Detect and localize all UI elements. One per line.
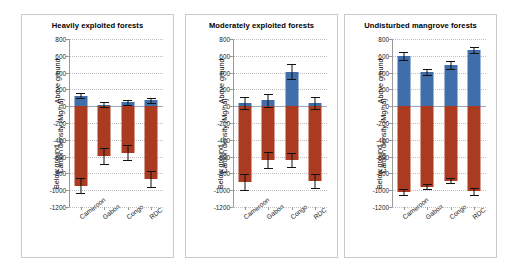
x-tick-mark (315, 207, 316, 210)
bar-group[interactable] (304, 39, 328, 207)
error-bar-cap (76, 93, 85, 94)
error-bar-cap (100, 107, 109, 108)
error-bar-cap (470, 195, 479, 196)
x-tick-mark (81, 207, 82, 210)
y-tick-label: 600 (378, 52, 389, 59)
y-tick-label: 400 (219, 69, 230, 76)
error-bar-below (403, 189, 404, 196)
error-bar-cap (147, 98, 156, 99)
plot-area: 8006004002000-200-400-600-800-1000-1200 (392, 39, 486, 207)
error-bar-cap (76, 193, 85, 194)
error-bar-cap (423, 184, 432, 185)
y-tick-label: 800 (219, 36, 230, 43)
error-bar-cap (100, 164, 109, 165)
error-bar-cap (446, 183, 455, 184)
bar-below-ground[interactable] (238, 106, 251, 182)
error-bar-below (315, 174, 316, 188)
error-bar-cap (264, 152, 273, 153)
error-bar-cap (76, 178, 85, 179)
bar-below-ground[interactable] (468, 106, 481, 191)
error-bar-cap (470, 53, 479, 54)
error-bar-cap (123, 160, 132, 161)
bar-above-ground[interactable] (397, 56, 410, 106)
error-bar-cap (264, 94, 273, 95)
bar-above-ground[interactable] (468, 50, 481, 106)
error-bar-cap (147, 187, 156, 188)
error-bar-cap (311, 109, 320, 110)
y-tick-label: -600 (376, 153, 389, 160)
bar-below-ground[interactable] (421, 106, 434, 187)
error-bar-cap (100, 148, 109, 149)
y-tick-mark (230, 207, 233, 208)
error-bar-cap (240, 97, 249, 98)
x-tick-mark (474, 207, 475, 210)
x-tick-mark (451, 207, 452, 210)
below-ground-axis-label: Below ground (52, 145, 61, 189)
bar-group[interactable] (257, 39, 281, 207)
bar-group[interactable] (140, 39, 164, 207)
error-bar-cap (123, 145, 132, 146)
y-tick-label: -800 (217, 170, 230, 177)
bar-below-ground[interactable] (145, 106, 158, 179)
y-tick-label: -600 (53, 153, 66, 160)
bar-group[interactable] (69, 39, 93, 207)
error-bar-cap (446, 178, 455, 179)
y-tick-label: 200 (378, 86, 389, 93)
x-tick-mark (151, 207, 152, 210)
error-bar-cap (76, 98, 85, 99)
bar-above-ground[interactable] (444, 65, 457, 106)
y-tick-label: -1200 (214, 204, 230, 211)
error-bar-below (80, 178, 81, 193)
x-tick-mark (427, 207, 428, 210)
y-tick-label: 800 (55, 36, 66, 43)
y-tick-mark (66, 207, 69, 208)
error-bar-cap (264, 168, 273, 169)
bar-below-ground[interactable] (397, 106, 410, 192)
error-bar-above (474, 47, 475, 54)
bar-group[interactable] (93, 39, 117, 207)
x-tick-mark (268, 207, 269, 210)
bar-group[interactable] (392, 39, 416, 207)
error-bar-cap (240, 190, 249, 191)
below-ground-axis-label: Below ground (216, 145, 225, 189)
error-bar-cap (423, 189, 432, 190)
chart-panel-0: Heavily exploited forestsCarbon density … (21, 14, 174, 258)
error-bar-cap (470, 188, 479, 189)
bar-group[interactable] (463, 39, 487, 207)
chart-figure: Heavily exploited forestsCarbon density … (0, 0, 516, 272)
panel-title: Heavily exploited forests (22, 21, 173, 31)
bar-below-ground[interactable] (444, 106, 457, 181)
bar-below-ground[interactable] (74, 106, 87, 185)
x-tick-mark (404, 207, 405, 210)
error-bar-below (291, 153, 292, 167)
above-ground-axis-label: Above ground (53, 59, 62, 104)
y-tick-label: -400 (376, 136, 389, 143)
error-bar-below (474, 188, 475, 195)
gridline (233, 207, 327, 208)
error-bar-cap (100, 102, 109, 103)
panel-title: Undisturbed mangrove forests (345, 21, 496, 31)
bar-group[interactable] (416, 39, 440, 207)
error-bar-cap (123, 100, 132, 101)
bar-group[interactable] (439, 39, 463, 207)
plot-area: 8006004002000-200-400-600-800-1000-1200 (69, 39, 163, 207)
x-tick-mark (292, 207, 293, 210)
error-bar-cap (423, 69, 432, 70)
y-tick-label: -800 (53, 170, 66, 177)
bar-group[interactable] (116, 39, 140, 207)
y-tick-label: -1000 (50, 187, 66, 194)
y-tick-label: -200 (217, 120, 230, 127)
bar-above-ground[interactable] (421, 72, 434, 106)
y-tick-label: 800 (378, 36, 389, 43)
error-bar-above (315, 97, 316, 109)
error-bar-cap (399, 189, 408, 190)
panel-title: Moderately exploited forests (186, 21, 337, 31)
y-tick-label: 200 (219, 86, 230, 93)
error-bar-above (268, 94, 269, 107)
bar-group[interactable] (233, 39, 257, 207)
bar-below-ground[interactable] (309, 106, 322, 181)
error-bar-above (244, 97, 245, 110)
bar-group[interactable] (280, 39, 304, 207)
x-tick-mark (245, 207, 246, 210)
y-tick-label: 600 (55, 52, 66, 59)
